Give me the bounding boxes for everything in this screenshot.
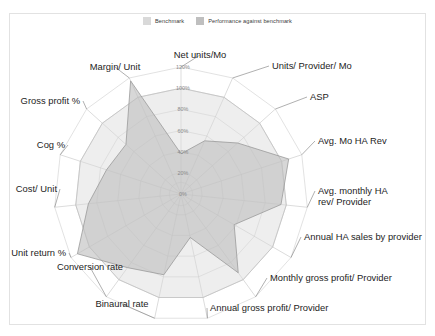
axis-label-14: Margin/ Unit bbox=[90, 61, 141, 72]
axis-label-12: Cog % bbox=[37, 139, 65, 150]
axis-label-13: Gross profit % bbox=[21, 95, 80, 106]
leader-line-4 bbox=[307, 191, 315, 207]
axis-label-1: Units/ Provider/ Mo bbox=[272, 60, 352, 71]
leader-line-1 bbox=[233, 66, 269, 78]
leader-line-13 bbox=[83, 101, 87, 109]
axis-label-2: ASP bbox=[310, 91, 329, 102]
r-tick-label-120: 120% bbox=[176, 64, 190, 70]
axis-label-0: Net units/Mo bbox=[174, 49, 227, 60]
chart-frame: Benchmark Performance against benchmark … bbox=[9, 13, 426, 325]
r-tick-label-80: 80% bbox=[178, 106, 189, 112]
leader-line-2 bbox=[275, 97, 307, 109]
r-tick-label-60: 60% bbox=[178, 128, 189, 134]
axis-label-7: Annual gross profit/ Provider bbox=[210, 302, 328, 313]
r-tick-label-100: 100% bbox=[176, 85, 190, 91]
axis-label-6: Monthly gross profit/ Provider bbox=[270, 272, 392, 283]
leader-line-5 bbox=[291, 237, 301, 258]
axis-label-8: Binaural rate bbox=[95, 298, 148, 309]
r-tick-label-20: 20% bbox=[178, 170, 189, 176]
r-tick-label-0: 0% bbox=[179, 191, 187, 197]
r-tick-label-40: 40% bbox=[178, 149, 189, 155]
axis-label-10: Unit return % bbox=[11, 247, 66, 258]
axis-label-5: Annual HA sales by provider bbox=[304, 231, 422, 242]
axis-label-9: Conversion rate bbox=[57, 261, 123, 272]
leader-line-3 bbox=[302, 141, 315, 155]
leader-line-6 bbox=[256, 278, 267, 297]
screenshot-root: Benchmark Performance against benchmark … bbox=[0, 0, 435, 336]
axis-label-3: Avg. Mo HA Rev bbox=[318, 135, 387, 146]
axis-label-11: Cost/ Unit bbox=[16, 183, 58, 194]
radar-chart: 0%20%40%60%80%100%120% Net units/MoUnits… bbox=[10, 14, 427, 326]
axis-label-4: Avg. monthly HArev/ Provider bbox=[318, 185, 388, 207]
